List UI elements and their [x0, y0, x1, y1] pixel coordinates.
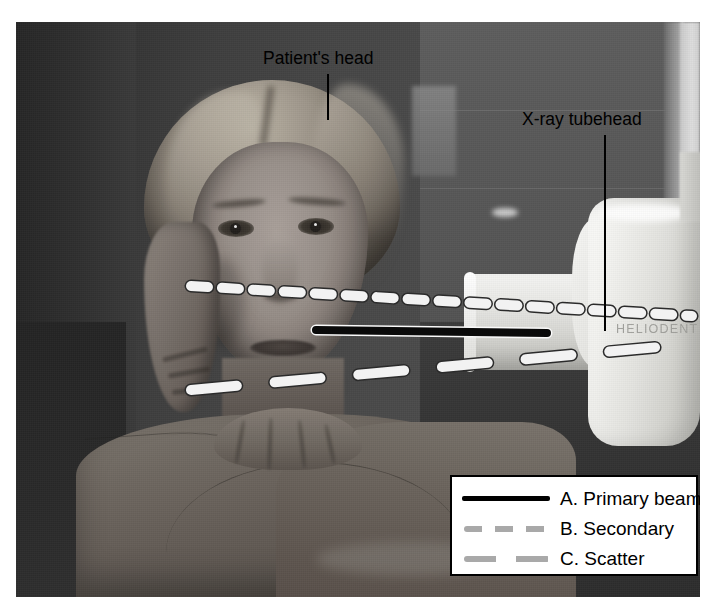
legend-box: A. Primary beam B. Secondary C. Scatter	[450, 475, 698, 576]
leader-line-patient-head	[327, 74, 329, 120]
annotation-label-xray-tubehead: X-ray tubehead	[522, 109, 642, 130]
legend-label-primary-beam: A. Primary beam	[560, 489, 700, 508]
clinical-photograph: HELIODENT	[16, 22, 700, 597]
legend-swatch-scatter	[462, 552, 550, 564]
legend-row-secondary: B. Secondary	[452, 513, 696, 543]
legend-row-scatter: C. Scatter	[452, 543, 696, 573]
legend-row-primary: A. Primary beam	[452, 483, 696, 513]
legend-swatch-primary-beam	[462, 492, 550, 504]
legend-label-secondary: B. Secondary	[560, 519, 674, 538]
legend-swatch-secondary	[462, 522, 550, 534]
legend-label-scatter: C. Scatter	[560, 549, 644, 568]
leader-line-xray-tubehead	[604, 135, 606, 331]
annotation-label-patient-head: Patient's head	[263, 48, 373, 69]
figure-container: HELIODENT	[0, 0, 715, 614]
